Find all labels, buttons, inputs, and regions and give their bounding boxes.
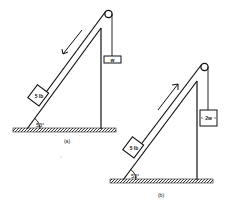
incline-upper-b [139, 64, 202, 147]
panel-a: w 5 lb 53° (a) [13, 10, 121, 144]
stray-mark [61, 157, 62, 158]
block-label-b: 5 lb [130, 145, 139, 151]
incline-lower-b [123, 81, 197, 180]
pulley-icon-a [105, 10, 112, 17]
angle-label-b: 53° [131, 173, 139, 179]
hanging-mass-label-b: 2w [205, 115, 212, 121]
hanging-mass-label-a: w [110, 57, 115, 63]
arrow-down-left-icon-a [62, 30, 82, 54]
incline-upper-a [44, 11, 106, 95]
caption-a: (a) [64, 138, 70, 144]
pulley-icon-b [201, 63, 208, 70]
caption-b: (b) [158, 192, 164, 198]
physics-diagram: w 5 lb 53° (a) 2w [0, 0, 231, 210]
block-label-a: 5 lb [35, 93, 44, 99]
panel-b: 2w 5 lb 53° (b) [110, 63, 217, 198]
incline-lower-a [27, 28, 101, 129]
angle-label-a: 53° [36, 122, 44, 128]
arrow-up-right-icon-b [158, 84, 178, 110]
